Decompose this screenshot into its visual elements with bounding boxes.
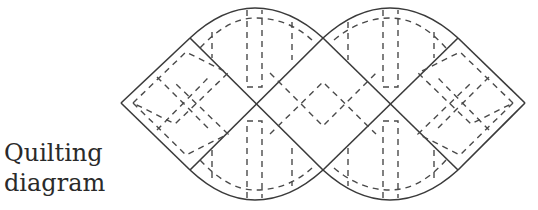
quilting-diagram: [0, 0, 538, 210]
